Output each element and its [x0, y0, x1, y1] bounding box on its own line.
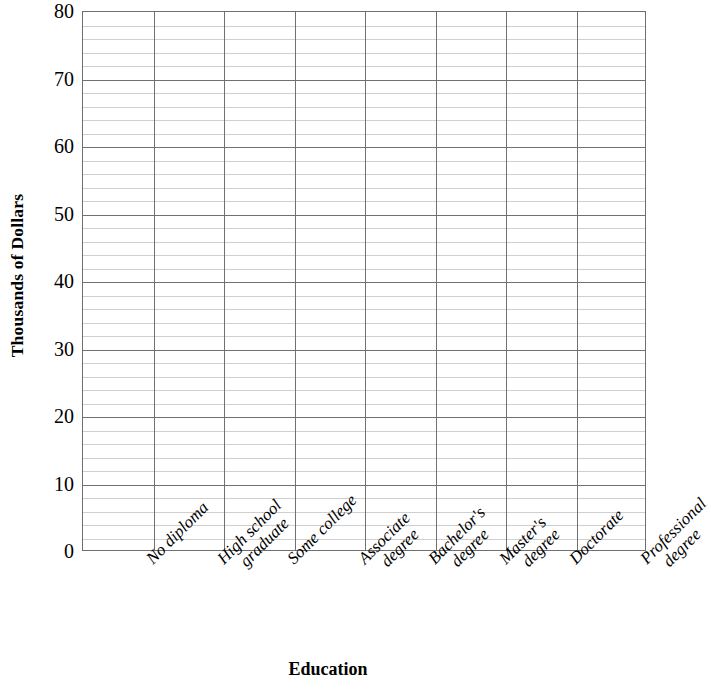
gridline-minor-horizontal [83, 188, 645, 189]
gridline-major-horizontal [83, 80, 645, 81]
gridline-minor-horizontal [83, 296, 645, 297]
gridline-minor-horizontal [83, 26, 645, 27]
x-axis-tick-label: Some college [284, 555, 296, 567]
gridline-vertical-category-separator [577, 12, 578, 550]
gridline-minor-horizontal [83, 498, 645, 499]
plot-area [82, 11, 646, 551]
y-axis-tick-label: 0 [64, 541, 74, 561]
gridline-vertical-category-separator [295, 12, 296, 550]
x-axis-tick-label: Doctorate [566, 555, 578, 567]
y-axis-tick-label: 30 [54, 339, 74, 359]
y-axis-tick-label: 70 [54, 69, 74, 89]
gridline-vertical-category-separator [224, 12, 225, 550]
gridline-minor-horizontal [83, 444, 645, 445]
gridline-minor-horizontal [83, 309, 645, 310]
gridline-minor-horizontal [83, 228, 645, 229]
gridline-minor-horizontal [83, 431, 645, 432]
y-axis-tick-label: 80 [54, 1, 74, 21]
y-axis-title: Thousands of Dollars [0, 0, 36, 551]
x-axis-tick-label: Bachelor'sdegree [425, 555, 450, 580]
gridline-minor-horizontal [83, 174, 645, 175]
gridline-minor-horizontal [83, 53, 645, 54]
gridline-minor-horizontal [83, 269, 645, 270]
gridline-minor-horizontal [83, 377, 645, 378]
gridline-major-horizontal [83, 282, 645, 283]
y-axis-tick-labels: 80706050403020100 [36, 0, 78, 562]
x-axis-tick-label: Professionaldegree [637, 555, 662, 580]
gridline-vertical-category-separator [365, 12, 366, 550]
x-axis-tick-label: Master'sdegree [496, 555, 521, 580]
x-axis-title: Education [0, 659, 656, 680]
x-axis-tick-labels: No diplomaHigh schoolgraduateSome colleg… [82, 551, 646, 661]
y-axis-title-text: Thousands of Dollars [8, 194, 29, 358]
gridline-major-horizontal [83, 215, 645, 216]
gridline-minor-horizontal [83, 66, 645, 67]
gridline-minor-horizontal [83, 39, 645, 40]
gridline-minor-horizontal [83, 134, 645, 135]
x-axis-tick-label: Associatedegree [355, 555, 380, 580]
gridline-major-horizontal [83, 350, 645, 351]
gridline-vertical-category-separator [506, 12, 507, 550]
y-axis-tick-label: 20 [54, 406, 74, 426]
gridline-minor-horizontal [83, 93, 645, 94]
gridline-minor-horizontal [83, 512, 645, 513]
gridline-minor-horizontal [83, 404, 645, 405]
gridline-major-horizontal [83, 147, 645, 148]
x-axis-tick-label: High schoolgraduate [214, 555, 239, 580]
y-axis-tick-label: 40 [54, 271, 74, 291]
gridline-vertical-category-separator [436, 12, 437, 550]
gridline-minor-horizontal [83, 458, 645, 459]
gridline-major-horizontal [83, 417, 645, 418]
gridline-minor-horizontal [83, 201, 645, 202]
gridline-minor-horizontal [83, 120, 645, 121]
x-axis-tick-label: No diploma [143, 555, 155, 567]
y-axis-tick-label: 60 [54, 136, 74, 156]
gridline-minor-horizontal [83, 242, 645, 243]
gridline-minor-horizontal [83, 255, 645, 256]
gridline-minor-horizontal [83, 363, 645, 364]
gridline-minor-horizontal [83, 390, 645, 391]
gridline-minor-horizontal [83, 525, 645, 526]
gridline-vertical-category-separator [154, 12, 155, 550]
gridline-minor-horizontal [83, 471, 645, 472]
gridline-major-horizontal [83, 485, 645, 486]
gridline-minor-horizontal [83, 336, 645, 337]
gridline-minor-horizontal [83, 107, 645, 108]
gridline-minor-horizontal [83, 161, 645, 162]
y-axis-tick-label: 50 [54, 204, 74, 224]
gridline-minor-horizontal [83, 323, 645, 324]
y-axis-tick-label: 10 [54, 474, 74, 494]
